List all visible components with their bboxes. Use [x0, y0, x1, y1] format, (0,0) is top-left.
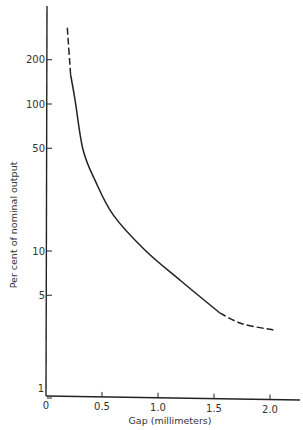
data-series	[67, 28, 273, 330]
y-axis	[46, 6, 47, 396]
curve-solid-segment	[71, 75, 220, 313]
axes	[46, 6, 300, 400]
chart-plot: 151050100200 00.51.01.52.0 Gap (millimet…	[0, 0, 303, 430]
y-ticks: 151050100200	[26, 54, 52, 398]
x-axis-title: Gap (millimeters)	[129, 415, 212, 426]
y-tick-label: 10	[32, 246, 45, 257]
x-tick-label: 2.0	[262, 404, 278, 415]
y-axis-title: Per cent of nominal output	[8, 161, 19, 288]
x-tick-label: 1.0	[150, 402, 166, 413]
y-tick-label: 50	[32, 143, 45, 154]
y-tick-label: 200	[26, 54, 45, 65]
y-tick-label: 5	[39, 290, 45, 301]
y-tick-label: 100	[26, 99, 45, 110]
y-tick-label: 1	[38, 383, 44, 394]
x-axis	[46, 396, 300, 400]
curve-dashed-segment	[67, 28, 70, 75]
x-ticks: 00.51.01.52.0	[43, 392, 278, 415]
x-tick-label: 0	[43, 400, 49, 411]
x-tick-label: 0.5	[94, 401, 110, 412]
curve-dashed-segment	[220, 313, 274, 330]
x-tick-label: 1.5	[206, 403, 222, 414]
